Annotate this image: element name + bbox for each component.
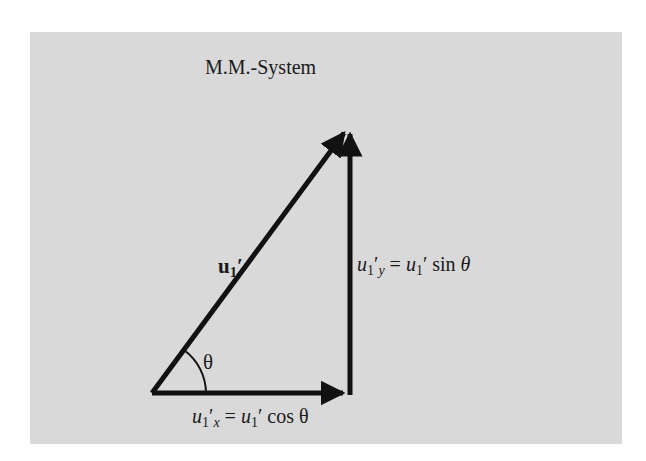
angle-theta-label: θ	[203, 350, 213, 375]
diagram-title: M.M.-System	[205, 56, 316, 79]
x-component-equation: u1′x = u1′ cos θ	[192, 405, 309, 431]
y-component-equation: u1′y = u1′ sin θ	[357, 253, 470, 279]
resultant-vector-label: u1′	[218, 254, 243, 281]
resultant-vector-arrow	[152, 133, 344, 393]
vector-triangle-diagram	[0, 0, 646, 461]
